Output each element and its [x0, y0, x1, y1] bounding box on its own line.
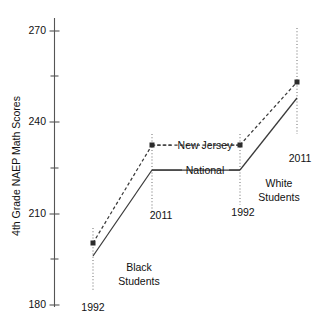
y-tick-label-240: 240: [28, 115, 46, 127]
legend-label-national: National: [186, 164, 225, 176]
chart-container: 270 240 210 180 4th Grade NAEP Math Scor…: [0, 0, 325, 323]
y-tick-label-180: 180: [28, 298, 46, 310]
x-label-black-1992: 1992: [81, 301, 105, 313]
series-national-black-segment: [93, 170, 152, 256]
y-tick-label-270: 270: [28, 24, 46, 36]
naep-math-scores-line-chart: 270 240 210 180 4th Grade NAEP Math Scor…: [0, 0, 325, 323]
group-label-black-line1: Black: [126, 261, 152, 273]
y-axis-title: 4th Grade NAEP Math Scores: [10, 96, 22, 236]
x-label-black-2011: 2011: [150, 209, 173, 221]
marker-new-jersey-white-2011: [295, 80, 300, 85]
legend-label-new-jersey: New Jersey: [178, 139, 234, 151]
y-tick-label-210: 210: [28, 207, 46, 219]
marker-new-jersey-black-1992: [91, 241, 96, 246]
group-label-black-line2: Students: [118, 275, 159, 287]
series-new-jersey-white-segment: [240, 82, 297, 145]
x-label-white-2011: 2011: [289, 152, 312, 164]
group-label-white-line2: Students: [258, 191, 299, 203]
series-new-jersey-black-segment: [93, 145, 152, 243]
marker-new-jersey-black-2011: [150, 143, 155, 148]
group-label-white-line1: White: [266, 177, 293, 189]
x-label-white-1992: 1992: [231, 206, 255, 218]
